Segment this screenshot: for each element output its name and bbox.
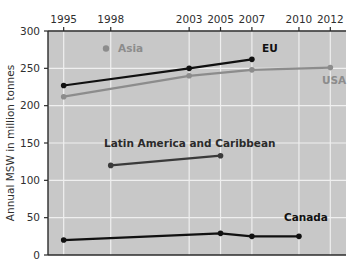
data-point [186, 73, 192, 79]
x-tick-label: 2005 [207, 13, 234, 25]
x-tick-label: 2007 [239, 13, 266, 25]
data-point [218, 231, 224, 237]
x-tick-label: 2010 [286, 13, 313, 25]
y-tick-label: 300 [20, 25, 40, 37]
y-tick-label: 100 [20, 174, 40, 186]
y-tick-label: 50 [27, 211, 40, 223]
data-point [61, 237, 67, 243]
series-label-canada: Canada [284, 211, 328, 223]
data-point [249, 234, 255, 240]
data-point [296, 234, 302, 240]
data-point [108, 163, 114, 169]
chart-container: 1995199820032005200720102012 05010015020… [0, 0, 357, 266]
x-tick-label: 1998 [97, 13, 124, 25]
data-point [328, 65, 334, 71]
data-point [249, 57, 255, 63]
y-tick-label: 200 [20, 99, 40, 111]
data-point [218, 153, 224, 159]
x-tick-label: 1995 [50, 13, 77, 25]
series-label-asia: Asia [118, 42, 143, 54]
data-point [249, 67, 255, 73]
asia-legend-dot-icon [103, 45, 109, 51]
x-tick-label: 2003 [176, 13, 203, 25]
data-point [61, 83, 67, 89]
data-point [61, 94, 67, 100]
y-axis-title: Annual MSW in million tonnes [4, 65, 16, 221]
line-chart: 1995199820032005200720102012 05010015020… [0, 0, 357, 266]
series-label-usa: USA [322, 74, 347, 86]
y-tick-label: 150 [20, 137, 40, 149]
series-label-latin-america-and-caribbean: Latin America and Caribbean [104, 137, 275, 149]
series-label-eu: EU [262, 42, 278, 54]
x-tick-label: 2012 [317, 13, 344, 25]
y-tick-label: 0 [33, 249, 40, 261]
y-tick-label: 250 [20, 62, 40, 74]
data-point [186, 66, 192, 72]
